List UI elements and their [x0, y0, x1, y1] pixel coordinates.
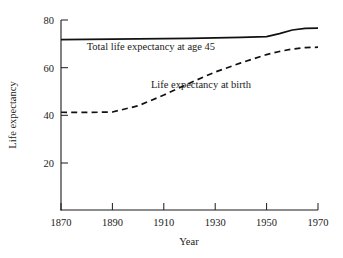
series-label-life-expectancy-at-birth: Life expectancy at birth — [151, 79, 252, 90]
y-tick-label-80: 80 — [44, 15, 55, 26]
y-tick-label-40: 40 — [44, 110, 55, 121]
x-axis-title: Year — [179, 236, 199, 247]
x-tick-label-1910: 1910 — [153, 217, 174, 228]
x-tick-label-1890: 1890 — [102, 217, 123, 228]
y-tick-label-60: 60 — [44, 63, 55, 74]
life-expectancy-chart: 80 60 40 20 1870 1890 1910 1930 1950 197… — [0, 0, 343, 258]
series-label-total-life-expectancy-at-age-45: Total life expectancy at age 45 — [87, 41, 215, 52]
x-tick-label-1930: 1930 — [205, 217, 226, 228]
y-tick-label-20: 20 — [44, 158, 55, 169]
x-tick-label-1970: 1970 — [308, 217, 329, 228]
x-tick-label-1950: 1950 — [256, 217, 277, 228]
y-axis-title: Life expectancy — [7, 81, 18, 149]
chart-svg: 80 60 40 20 1870 1890 1910 1930 1950 197… — [0, 0, 343, 258]
x-tick-label-1870: 1870 — [51, 217, 72, 228]
